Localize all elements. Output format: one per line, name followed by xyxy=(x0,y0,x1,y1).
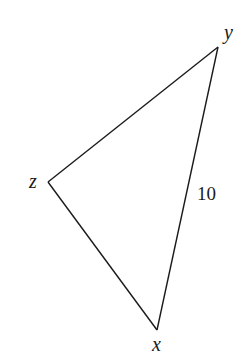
triangle-edges xyxy=(48,47,218,330)
vertex-label-z: z xyxy=(28,170,37,192)
edge-y-z xyxy=(48,47,218,182)
triangle-diagram: y z x 10 xyxy=(0,0,245,360)
vertex-label-x: x xyxy=(151,333,161,355)
edge-z-x xyxy=(48,182,157,330)
vertex-label-y: y xyxy=(222,21,233,44)
side-label-xy: 10 xyxy=(197,183,216,204)
